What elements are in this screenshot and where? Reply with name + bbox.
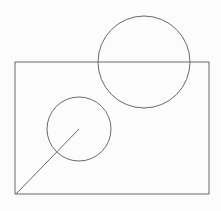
diagonal-line-shape — [16, 129, 79, 194]
drawing-canvas — [0, 0, 221, 211]
rectangle-shape — [15, 62, 209, 194]
